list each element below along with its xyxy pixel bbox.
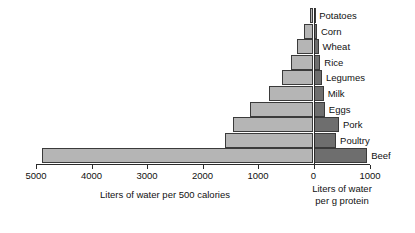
bar-left-rice[interactable] xyxy=(291,55,313,70)
x-tick-left-3000 xyxy=(147,165,148,169)
x-tick-label-right-1000: 1000 xyxy=(359,170,380,181)
bar-left-legumes[interactable] xyxy=(282,70,313,85)
bar-row: Rice xyxy=(0,55,415,70)
bar-label-legumes: Legumes xyxy=(326,70,365,85)
bar-left-beef[interactable] xyxy=(42,148,314,163)
x-axis-title-left: Liters of water per 500 calories xyxy=(55,189,275,201)
zero-axis-line xyxy=(314,8,315,164)
bar-right-pork[interactable] xyxy=(314,117,339,132)
bar-right-milk[interactable] xyxy=(314,86,324,101)
bar-right-legumes[interactable] xyxy=(314,70,322,85)
x-axis-title-right-line1: Liters of water xyxy=(312,183,372,194)
bar-label-poultry: Poultry xyxy=(340,133,370,148)
x-tick-left-2000 xyxy=(203,165,204,169)
x-tick-left-4000 xyxy=(92,165,93,169)
bar-right-beef[interactable] xyxy=(314,148,368,163)
bar-right-eggs[interactable] xyxy=(314,102,325,117)
x-tick-label-4000: 4000 xyxy=(81,170,102,181)
bar-label-beef: Beef xyxy=(371,148,391,163)
bar-row: Legumes xyxy=(0,70,415,85)
bar-label-pork: Pork xyxy=(343,117,363,132)
x-tick-label-5000: 5000 xyxy=(25,170,46,181)
bar-left-poultry[interactable] xyxy=(225,133,314,148)
x-tick-label-2000: 2000 xyxy=(192,170,213,181)
bar-left-wheat[interactable] xyxy=(297,39,314,54)
water-footprint-chart: PotatoesCornWheatRiceLegumesMilkEggsPork… xyxy=(0,0,415,233)
bar-label-corn: Corn xyxy=(321,24,342,39)
bar-right-poultry[interactable] xyxy=(314,133,337,148)
bar-left-eggs[interactable] xyxy=(250,102,314,117)
x-tick-left-0 xyxy=(314,165,315,169)
x-tick-left-1000 xyxy=(258,165,259,169)
bar-label-potatoes: Potatoes xyxy=(319,8,357,23)
bar-row: Milk xyxy=(0,86,415,101)
bar-left-pork[interactable] xyxy=(233,117,313,132)
bar-row: Pork xyxy=(0,117,415,132)
bar-row: Poultry xyxy=(0,133,415,148)
bar-left-corn[interactable] xyxy=(304,24,313,39)
x-tick-label-3000: 3000 xyxy=(136,170,157,181)
x-tick-right-1000 xyxy=(370,165,371,169)
bar-left-milk[interactable] xyxy=(269,86,313,101)
x-axis-title-right-line2: per g protein xyxy=(315,195,368,206)
bar-label-eggs: Eggs xyxy=(329,102,351,117)
bar-label-milk: Milk xyxy=(328,86,345,101)
bar-label-wheat: Wheat xyxy=(323,39,350,54)
bar-row: Beef xyxy=(0,148,415,163)
plot-area: PotatoesCornWheatRiceLegumesMilkEggsPork… xyxy=(0,0,415,233)
x-axis-title-right: Liters of waterper g protein xyxy=(299,183,385,207)
bar-row: Eggs xyxy=(0,102,415,117)
x-tick-label-1000: 1000 xyxy=(247,170,268,181)
bar-row: Wheat xyxy=(0,39,415,54)
bar-row: Corn xyxy=(0,24,415,39)
bar-label-rice: Rice xyxy=(324,55,343,70)
x-tick-left-5000 xyxy=(36,165,37,169)
x-tick-label-0: 0 xyxy=(311,170,316,181)
bar-row: Potatoes xyxy=(0,8,415,23)
